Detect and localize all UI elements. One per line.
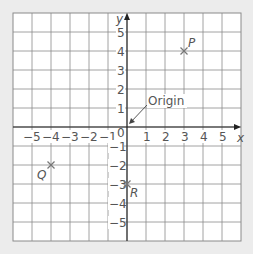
point-label: R xyxy=(130,186,138,200)
x-axis-label: x xyxy=(236,131,245,145)
y-tick-label: −3 xyxy=(109,178,127,192)
x-tick-label: −4 xyxy=(42,130,60,144)
y-tick-label: −4 xyxy=(109,197,127,211)
y-tick-label: −2 xyxy=(109,159,127,173)
origin-label: 0 xyxy=(117,126,125,140)
point-label: Q xyxy=(37,168,46,182)
x-tick-label: −2 xyxy=(80,130,98,144)
y-tick-label: 3 xyxy=(117,64,125,78)
y-tick-label: −5 xyxy=(109,216,127,230)
x-tick-label: 3 xyxy=(181,130,189,144)
y-tick-label: 2 xyxy=(117,83,125,97)
x-tick-label: 1 xyxy=(143,130,151,144)
y-tick-label: 5 xyxy=(117,26,125,40)
origin-annotation-text: Origin xyxy=(148,94,184,108)
y-tick-label: 4 xyxy=(117,45,125,59)
point-label: P xyxy=(188,36,196,50)
y-tick-label: −1 xyxy=(109,140,127,154)
y-axis-label: y xyxy=(115,12,124,26)
x-tick-label: −5 xyxy=(23,130,41,144)
x-tick-label: 4 xyxy=(200,130,208,144)
y-tick-label: 1 xyxy=(117,102,125,116)
x-tick-label: 2 xyxy=(162,130,170,144)
x-tick-label: −3 xyxy=(61,130,79,144)
coordinate-grid: xy −5−4−3−2−11234554321−1−2−3−4−50 Origi… xyxy=(0,0,253,254)
x-tick-label: 5 xyxy=(219,130,227,144)
